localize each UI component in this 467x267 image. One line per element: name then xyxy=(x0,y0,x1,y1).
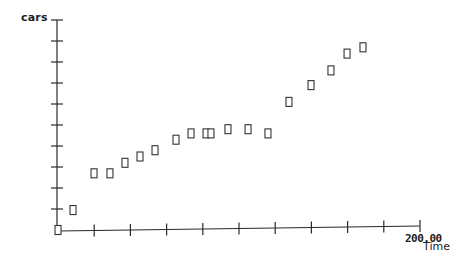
data-point-marker xyxy=(245,125,251,134)
data-point-marker xyxy=(286,97,292,106)
data-point-marker xyxy=(152,146,158,155)
data-point-marker xyxy=(344,49,350,58)
data-point-marker xyxy=(70,206,76,215)
data-point-marker xyxy=(107,169,113,178)
data-point-marker xyxy=(137,152,143,161)
data-point-marker xyxy=(360,43,366,52)
data-point-marker xyxy=(122,158,128,167)
data-point-marker xyxy=(225,125,231,134)
x-axis xyxy=(58,220,420,237)
data-point-marker xyxy=(188,129,194,138)
data-point-marker xyxy=(328,66,334,75)
data-point-marker xyxy=(308,81,314,90)
data-point-marker xyxy=(265,129,271,138)
y-axis xyxy=(51,20,63,231)
data-points xyxy=(55,43,366,235)
data-point-marker xyxy=(91,169,97,178)
scatter-plot xyxy=(0,0,467,267)
data-point-marker xyxy=(55,226,61,235)
x-axis-label: Time xyxy=(423,240,450,253)
y-axis-label: cars xyxy=(21,11,48,24)
data-point-marker xyxy=(173,135,179,144)
data-point-marker xyxy=(208,129,214,138)
